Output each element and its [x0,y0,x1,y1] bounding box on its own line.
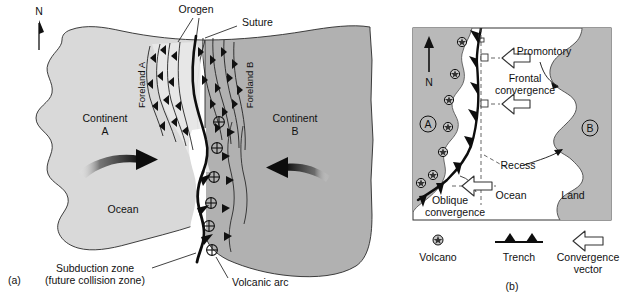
convergence-vector-icon [573,231,603,251]
volcano-icon [444,95,453,104]
ocean-label-b: Ocean [496,189,527,201]
frontal-convergence-label-line1: Frontal [509,72,542,84]
figure-root: N Orogen Suture Foreland A Foreland B Co… [0,0,624,294]
subduction-zone-label-line1: Subduction zone [56,262,134,274]
panel-b-legend: Volcano Trench Convergence vector [419,231,619,275]
land-label: Land [561,189,585,201]
north-label-a: N [35,5,43,17]
geology-figure-svg: N Orogen Suture Foreland A Foreland B Co… [0,0,624,294]
continent-b-label-line1: Continent [273,112,318,124]
north-label-b: N [425,76,433,88]
volcano-icon [457,37,466,46]
volcano-icon [438,147,447,156]
frontal-convergence-label-line2: convergence [495,84,555,96]
orogen-label: Orogen [178,3,213,15]
legend-item-convergence-vector: Convergence vector [557,231,620,275]
legend-label-convergence-line2: vector [574,263,603,275]
legend-label-trench: Trench [503,251,535,263]
promontory-label: Promontory [517,45,572,57]
north-arrow-panel-a: N [35,5,44,50]
oblique-convergence-label-line2: convergence [425,206,485,218]
legend-label-convergence-line1: Convergence [557,251,620,263]
volcanic-arc-label: Volcanic arc [232,276,289,288]
panel-b-tag: (b) [506,280,519,292]
suture-label: Suture [242,16,273,28]
continent-b-shape [205,26,373,277]
oblique-convergence-label-line1: Oblique [432,194,468,206]
plate-b-label: B [586,122,593,134]
volcano-icon [433,235,443,245]
volcano-icon [214,117,225,128]
foreland-b-label: Foreland B [244,62,255,108]
foreland-a-label: Foreland A [136,61,147,108]
plate-a-label: A [424,118,431,130]
panel-b: N A B Promontory Frontal convergence Rec… [413,28,619,292]
volcano-icon [207,245,218,256]
continent-a-label-line1: Continent [83,112,128,124]
panel-a-tag: (a) [8,274,21,286]
recess-label: Recess [500,159,535,171]
volcano-icon [416,178,425,187]
legend-label-volcano: Volcano [419,251,457,263]
ocean-label-a: Ocean [108,203,139,215]
volcano-icon [209,172,220,183]
volcano-icon [428,170,437,179]
legend-item-volcano: Volcano [419,235,457,263]
volcano-icon [450,69,459,78]
continent-b-label-line2: B [291,125,298,137]
volcano-icon [206,198,217,209]
volcano-icon [204,221,215,232]
legend-item-trench: Trench [495,233,543,263]
continent-a-label-line2: A [101,125,108,137]
trench-icon [495,233,543,242]
panel-a: N Orogen Suture Foreland A Foreland B Co… [8,3,373,288]
volcano-icon [443,122,452,131]
volcano-icon [212,143,223,154]
subduction-zone-label-line2: (future collision zone) [45,274,145,286]
